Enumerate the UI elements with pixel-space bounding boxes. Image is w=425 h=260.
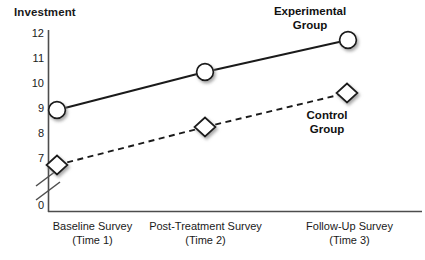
- x-category-label-time3: Follow-Up Survey (Time 3): [277, 219, 422, 247]
- x-category-label-time2: Post-Treatment Survey (Time 2): [133, 219, 278, 247]
- x-category-label-time1-main: Baseline Survey: [53, 220, 133, 232]
- x-category-label-time2-sub: (Time 2): [133, 233, 278, 247]
- series-label-control: Control Group: [287, 109, 367, 136]
- investment-line-chart: Investment 12 11 10 9 8 7 0: [0, 0, 425, 260]
- data-point-control-time3: [337, 84, 358, 103]
- data-point-experimental-time1: [49, 102, 66, 119]
- series-label-control-line2: Group: [310, 123, 345, 135]
- data-point-experimental-time3: [340, 32, 357, 49]
- series-label-control-line1: Control: [307, 109, 348, 121]
- series-experimental-markers: [49, 32, 357, 119]
- series-label-experimental-line2: Group: [293, 19, 328, 31]
- data-point-control-time2: [195, 118, 216, 137]
- data-point-experimental-time2: [197, 64, 214, 81]
- series-label-experimental-line1: Experimental: [274, 5, 346, 17]
- x-category-label-time3-main: Follow-Up Survey: [306, 220, 393, 232]
- series-label-experimental: Experimental Group: [250, 5, 370, 32]
- data-point-control-time1: [47, 156, 68, 175]
- x-category-label-time3-sub: (Time 3): [277, 233, 422, 247]
- x-category-label-time2-main: Post-Treatment Survey: [149, 220, 262, 232]
